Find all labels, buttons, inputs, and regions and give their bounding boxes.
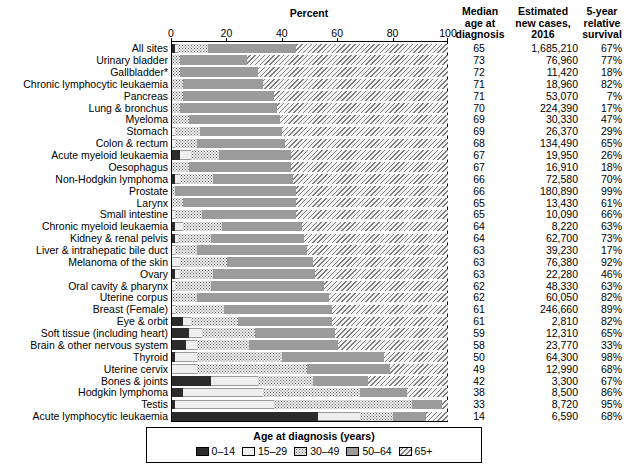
cell-new-cases: 62,700 [504, 232, 578, 244]
stacked-bar [172, 127, 448, 137]
cell-new-cases: 72,580 [504, 173, 578, 185]
chart-row: Lung & bronchus70224,39017% [0, 102, 628, 114]
chart-row: Hodgkin lymphoma388,50086% [0, 386, 628, 398]
legend-item[interactable]: 65+ [399, 445, 433, 457]
cell-median-age: 69 [452, 125, 506, 137]
bar-segment-30-49 [175, 281, 211, 291]
cell-new-cases: 12,990 [504, 363, 578, 375]
stacked-bar [172, 79, 448, 89]
column-header-survival-line1: 5-year [578, 6, 626, 18]
bar-segment-65plus [280, 115, 448, 125]
bar-segment-50-64 [224, 305, 332, 315]
stacked-bar [172, 186, 448, 196]
cell-new-cases: 2,810 [504, 315, 578, 327]
bar-segment-30-49 [180, 174, 213, 184]
cell-median-age: 49 [452, 363, 506, 375]
cell-survival: 17% [580, 244, 622, 256]
cell-survival: 66% [580, 208, 622, 220]
stacked-bar [172, 340, 448, 350]
cell-new-cases: 30,330 [504, 113, 578, 125]
bar-segment-30-49 [172, 293, 197, 303]
bar-segment-50-64 [249, 340, 337, 350]
cell-survival: 61% [580, 197, 622, 209]
legend-item[interactable]: 0–14 [196, 445, 235, 457]
cell-new-cases: 246,660 [504, 303, 578, 315]
stacked-bar [172, 139, 448, 149]
row-label: Acute myeloid leukaemia [0, 149, 168, 161]
bar-segment-30-49 [180, 257, 227, 267]
bar-segment-65plus [324, 281, 448, 291]
legend-item[interactable]: 50–64 [346, 445, 391, 457]
cell-new-cases: 19,950 [504, 149, 578, 161]
cell-median-age: 59 [452, 327, 506, 339]
legend-item[interactable]: 15–29 [242, 445, 287, 457]
cell-new-cases: 48,330 [504, 280, 578, 292]
bar-segment-30-49 [172, 103, 180, 113]
cell-median-age: 42 [452, 375, 506, 387]
cell-survival: 68% [580, 363, 622, 375]
row-label: Melanoma of the skin [0, 256, 168, 268]
column-header-median-age-line1: Median [452, 6, 508, 18]
bar-segment-50-64 [313, 376, 368, 386]
bar-segment-65plus [302, 222, 448, 232]
bar-segment-50-64 [213, 174, 293, 184]
row-label: Stomach [0, 125, 168, 137]
chart-row: Brain & other nervous system5823,77033% [0, 339, 628, 351]
row-label: Larynx [0, 197, 168, 209]
bar-segment-30-49 [360, 412, 393, 422]
stacked-bar [172, 281, 448, 291]
legend-swatch-hatched [399, 447, 412, 456]
legend: Age at diagnosis (years) 0–1415–2930–495… [146, 427, 482, 463]
stacked-bar [172, 55, 448, 65]
bar-segment-65plus [258, 67, 448, 77]
cell-new-cases: 76,380 [504, 256, 578, 268]
stacked-bar [172, 210, 448, 220]
cell-survival: 82% [580, 315, 622, 327]
chart-row: All sites651,685,21067% [0, 42, 628, 54]
x-axis-tick-label: 100 [433, 27, 463, 39]
bar-segment-65plus [263, 79, 448, 89]
chart-row: Colon & rectum68134,49065% [0, 137, 628, 149]
legend-item[interactable]: 30–49 [294, 445, 339, 457]
bar-segment-65plus [332, 305, 448, 315]
bar-segment-30-49 [183, 222, 222, 232]
cell-median-age: 62 [452, 280, 506, 292]
cell-median-age: 14 [452, 410, 506, 422]
stacked-bar [172, 91, 448, 101]
bar-segment-0-14 [172, 328, 189, 338]
bar-segment-50-64 [393, 412, 426, 422]
cell-median-age: 38 [452, 386, 506, 398]
bar-segment-0-14 [172, 150, 180, 160]
cell-median-age: 71 [452, 90, 506, 102]
bar-segment-0-14 [172, 317, 183, 327]
stacked-bar [172, 412, 448, 422]
cell-median-age: 63 [452, 268, 506, 280]
column-header-new-cases: Estimated new cases, 2016 [508, 6, 578, 41]
legend-label: 15–29 [258, 445, 287, 457]
chart-row: Acute myeloid leukaemia6719,95026% [0, 149, 628, 161]
cell-median-age: 68 [452, 137, 506, 149]
chart-row: Larynx6513,43061% [0, 197, 628, 209]
cell-median-age: 67 [452, 149, 506, 161]
bar-segment-30-49 [175, 305, 225, 315]
cell-survival: 65% [580, 137, 622, 149]
bar-segment-50-64 [200, 127, 283, 137]
cell-median-age: 63 [452, 256, 506, 268]
cell-new-cases: 39,230 [504, 244, 578, 256]
stacked-bar [172, 103, 448, 113]
bar-segment-65plus [296, 44, 448, 54]
chart-row: Gallbladder*7211,42018% [0, 66, 628, 78]
bar-segment-65plus [332, 317, 448, 327]
chart-row: Melanoma of the skin6376,38092% [0, 256, 628, 268]
row-label: Hodgkin lymphoma [0, 386, 168, 398]
cell-new-cases: 3,300 [504, 375, 578, 387]
stacked-bar [172, 328, 448, 338]
row-label: Gallbladder* [0, 66, 168, 78]
chart-row: Acute lymphocytic leukaemia146,59068% [0, 410, 628, 422]
bar-segment-30-49 [191, 317, 238, 327]
bar-segment-50-64 [238, 317, 332, 327]
cell-median-age: 61 [452, 315, 506, 327]
cell-new-cases: 18,960 [504, 78, 578, 90]
cell-survival: 68% [580, 410, 622, 422]
bar-segment-65plus [313, 257, 448, 267]
